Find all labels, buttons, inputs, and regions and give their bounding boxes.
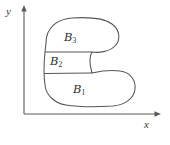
region-b2-subscript: 2 xyxy=(58,60,62,69)
region-label-b3: B3 xyxy=(64,32,76,44)
x-axis-label: x xyxy=(144,119,149,130)
region-b3-subscript: 3 xyxy=(72,36,76,45)
x-axis-arrow-icon xyxy=(155,111,162,116)
region-label-b2: B2 xyxy=(50,56,62,68)
y-axis-arrow-icon xyxy=(21,5,26,12)
figure-container: y x B3 B2 B1 xyxy=(0,0,170,145)
y-axis-label: y xyxy=(6,6,11,17)
region-label-b1: B1 xyxy=(73,84,85,96)
region-b1-subscript: 1 xyxy=(81,88,85,97)
divider-b2-b1 xyxy=(45,73,93,74)
